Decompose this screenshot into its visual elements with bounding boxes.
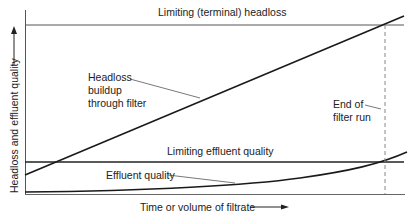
headloss-label-3: through filter [88,97,147,109]
filter-run-diagram: Limiting (terminal) headloss Headloss bu… [0,0,416,219]
headloss-label-1: Headloss [88,71,132,83]
end-run-label-2: filter run [333,111,371,123]
headloss-leader [130,79,200,98]
headloss-label-2: buildup [88,84,122,96]
x-arrow-head-icon [281,205,289,210]
limiting-headloss-label: Limiting (terminal) headloss [158,6,286,18]
effluent-quality-curve [25,152,407,192]
y-axis-label: Headloss and effluent quality [8,58,20,193]
effluent-leader [168,175,235,183]
end-run-label-1: End of [333,98,363,110]
x-axis-label: Time or volume of filtrate [140,201,255,213]
effluent-quality-label: Effluent quality [106,169,175,181]
end-run-leader [365,105,381,109]
y-arrow-head-icon [11,26,17,34]
limiting-effluent-label: Limiting effluent quality [167,145,274,157]
